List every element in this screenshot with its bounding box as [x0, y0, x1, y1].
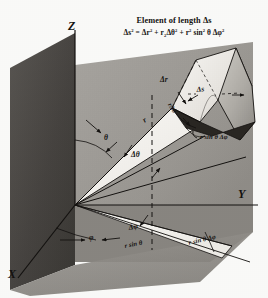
- axis-label-z: Z: [68, 20, 75, 32]
- label-delta-r: Δr: [160, 76, 168, 84]
- diagram-canvas: [0, 0, 268, 298]
- xz-plane: [10, 33, 75, 290]
- equation-term-2: r2Δθ2: [161, 28, 178, 37]
- label-delta-theta: Δθ: [131, 151, 140, 159]
- equation-plus-2: +: [179, 28, 183, 37]
- spherical-coordinates-diagram: Element of length Δs Δs2 = Δr2 + r2Δθ2 +…: [0, 0, 268, 298]
- equation-equals: =: [136, 28, 140, 37]
- equation-lhs: Δs2: [124, 28, 134, 37]
- label-delta-phi: Δφ: [128, 222, 139, 231]
- equation-term-1: Δr2: [142, 28, 153, 37]
- label-r-sin-theta-delta-phi-upper: r sin θ Δφ: [200, 134, 228, 141]
- label-phi: φ: [89, 234, 94, 242]
- axis-label-y: Y: [238, 188, 245, 200]
- figure-title: Element of length Δs: [104, 17, 244, 25]
- label-theta: θ: [104, 134, 108, 142]
- equation-term-3: r2 sin2 θ Δφ2: [186, 28, 225, 37]
- label-delta-s: Δs: [196, 85, 205, 93]
- axis-label-x: X: [8, 268, 16, 280]
- figure-equation: Δs2 = Δr2 + r2Δθ2 + r2 sin2 θ Δφ2: [88, 29, 260, 36]
- equation-plus-1: +: [154, 28, 158, 37]
